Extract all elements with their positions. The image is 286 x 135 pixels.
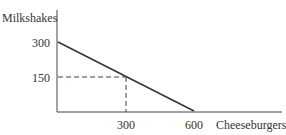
y-axis-label: Milkshakes — [2, 12, 57, 24]
x-axis-label: Cheeseburgers — [216, 119, 286, 131]
y-tick-300: 300 — [32, 37, 50, 49]
x-tick-300: 300 — [117, 119, 135, 131]
y-tick-150: 150 — [32, 72, 50, 84]
x-tick-600: 600 — [185, 119, 203, 131]
